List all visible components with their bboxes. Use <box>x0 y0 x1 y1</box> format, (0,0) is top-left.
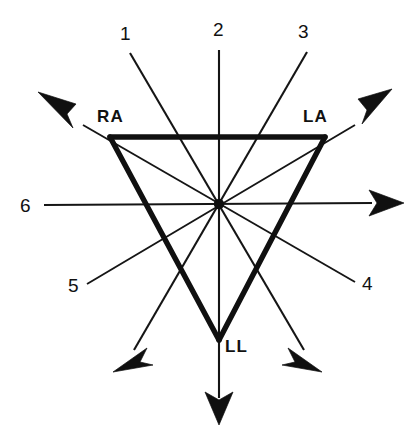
triangle-side-la-ll <box>219 137 325 340</box>
lead-label-1: 1 <box>120 24 131 43</box>
lead-label-4: 4 <box>362 274 373 293</box>
vertex-label-ll: LL <box>225 338 248 355</box>
lead-label-6: 6 <box>20 196 31 215</box>
lead-label-5: 5 <box>68 276 79 295</box>
lead-axes-group <box>44 50 372 398</box>
figure-canvas <box>0 0 418 441</box>
arrowhead-lead-1 <box>282 348 322 372</box>
arrowhead-lead-3 <box>113 348 153 372</box>
einthoven-triangle-figure: RA LA LL 1 2 3 4 5 6 <box>0 0 418 441</box>
arrowhead-lead-4 <box>38 92 76 128</box>
triangle-side-ll-ra <box>110 137 219 340</box>
einthoven-triangle <box>110 137 325 340</box>
lead-label-3: 3 <box>298 22 309 41</box>
vertex-label-ra: RA <box>97 108 124 125</box>
arrowhead-lead-5 <box>358 89 392 124</box>
lead-label-2: 2 <box>213 20 224 39</box>
arrowhead-lead-6 <box>369 190 404 216</box>
lead-axis-6 <box>44 203 372 205</box>
center-point <box>214 199 224 209</box>
vertex-label-la: LA <box>303 108 328 125</box>
